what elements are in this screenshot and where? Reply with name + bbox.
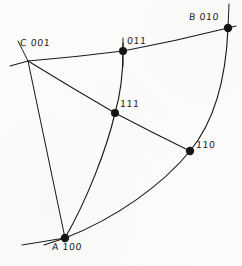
pole-marker-111[interactable] <box>186 147 194 155</box>
pole-marker-110[interactable] <box>61 234 69 242</box>
arc-011-111-a <box>65 43 123 238</box>
pole-label-b-010: B 010 <box>189 12 220 23</box>
pole-marker-group <box>61 24 232 242</box>
stereographic-projection-figure: C 001 011 B 010 111 110 A 100 <box>0 0 242 266</box>
pole-label-111: 111 <box>120 99 141 110</box>
pole-marker-011[interactable] <box>224 24 232 32</box>
pole-label-a-100: A 100 <box>52 242 83 253</box>
arc-b-110-a <box>44 28 228 245</box>
pole-label-011: 011 <box>127 36 148 47</box>
line-c-a <box>28 61 65 238</box>
pole-label-c-001: C 001 <box>20 38 51 49</box>
line-c-111-110 <box>28 61 190 151</box>
pole-marker-b-010[interactable] <box>111 109 119 117</box>
pole-label-110: 110 <box>196 140 217 151</box>
pole-marker-c-001[interactable] <box>119 47 127 55</box>
zone-line-group <box>28 61 190 238</box>
